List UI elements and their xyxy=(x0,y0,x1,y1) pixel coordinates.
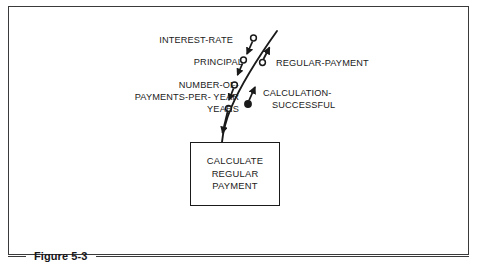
couple-label-years: YEARS xyxy=(207,104,239,116)
couple-label-number-of-payments-per-year: NUMBER-OF-PAYMENTS-PER- YEAR xyxy=(135,80,239,103)
caption-rule-right xyxy=(96,256,469,257)
couple-label-interest-rate: INTEREST-RATE xyxy=(159,35,233,47)
module-label-line2: REGULAR xyxy=(212,168,259,181)
caption-rule-left xyxy=(8,256,26,257)
couple-label-calculation-successful: CALCULATION-SUCCESSFUL xyxy=(263,88,335,111)
figure-caption: Figure 5-3 xyxy=(26,250,96,262)
couple-label-line1: CALCULATION- xyxy=(263,88,332,98)
figure-page: INTEREST-RATE PRINCIPAL NUMBER-OF-PAYMEN… xyxy=(0,0,478,273)
couple-label-line1: NUMBER-OF- xyxy=(179,80,239,90)
figure-caption-row: Figure 5-3 xyxy=(8,248,469,264)
couple-label-line2: SUCCESSFUL xyxy=(263,100,335,112)
couple-label-principal: PRINCIPAL xyxy=(194,57,243,69)
module-box-calculate-regular-payment: CALCULATE REGULAR PAYMENT xyxy=(190,142,280,206)
module-label-line3: PAYMENT xyxy=(212,180,257,193)
couple-label-line2: PAYMENTS-PER- YEAR xyxy=(135,92,239,102)
module-label-line1: CALCULATE xyxy=(207,155,263,168)
couple-label-regular-payment: REGULAR-PAYMENT xyxy=(276,58,369,70)
figure-frame xyxy=(8,6,469,255)
